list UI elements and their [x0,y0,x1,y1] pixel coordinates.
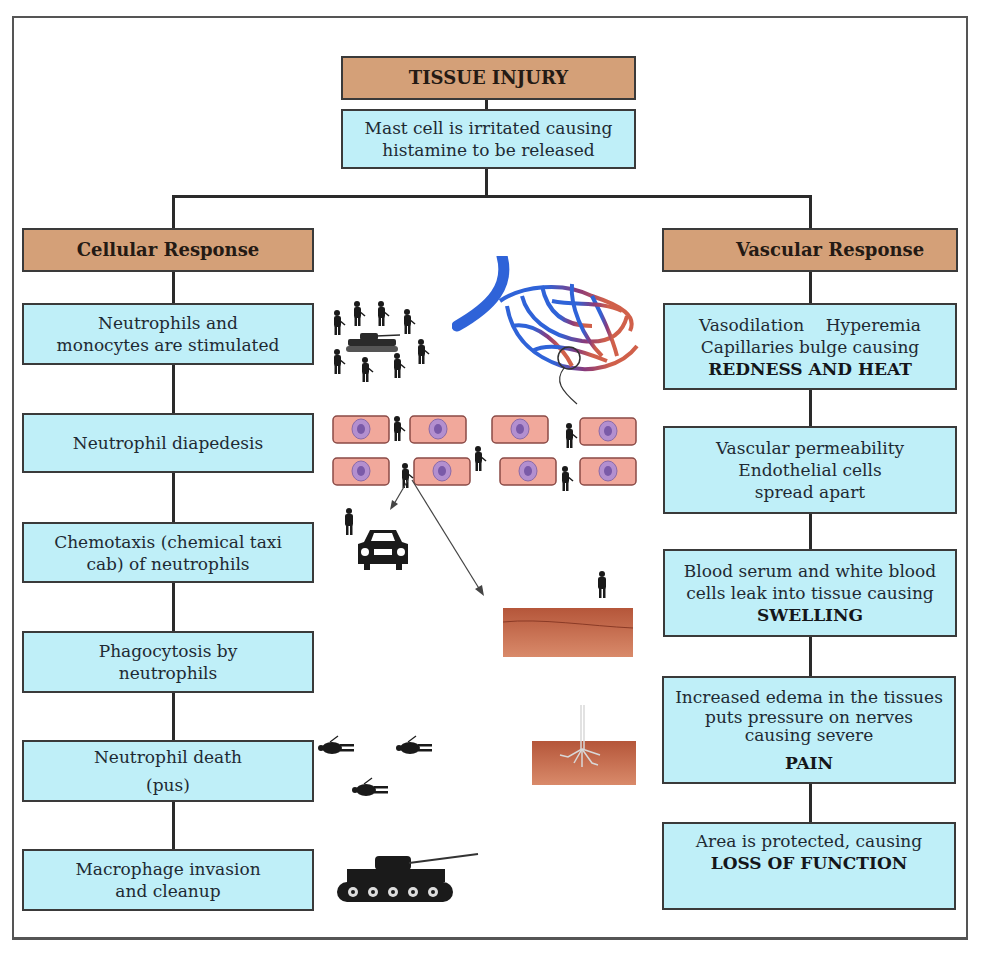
step-text: and cleanup [115,880,220,902]
connector [485,169,488,197]
tissue-injury-header: TISSUE INJURY [341,56,636,100]
fallen-soldiers-icon [314,730,454,810]
connector [172,272,175,304]
step-text: puts pressure on nerves [705,708,913,726]
step-text: cells leak into tissue causing [686,582,934,604]
step-text: Increased edema in the tissues [675,686,943,708]
vascular-step-4: Increased edema in the tissues puts pres… [662,676,956,784]
step-text: causing severe [745,726,874,744]
step-text: Endothelial cells [738,459,881,481]
connector [172,195,175,229]
step-text: Phagocytosis by [99,640,238,662]
step-text: monocytes are stimulated [57,334,280,356]
step-text: Neutrophil death [94,746,242,768]
step-text: neutrophils [119,662,218,684]
mast-cell-box: Mast cell is irritated causing histamine… [341,109,636,169]
connector [172,195,812,198]
connector [809,784,812,823]
vascular-step-3: Blood serum and white blood cells leak i… [663,549,957,637]
step-text: Neutrophil diapedesis [73,432,263,454]
vascular-step-1: Vasodilation Hyperemia Capillaries bulge… [663,303,957,390]
vascular-step-2: Vascular permeability Endothelial cells … [663,426,957,514]
vascular-step-5: Area is protected, causing LOSS OF FUNCT… [662,822,956,910]
vascular-response-label: Vascular Response [696,239,924,261]
cellular-step-1: Neutrophils and monocytes are stimulated [22,303,314,365]
connector [172,693,175,741]
symptom-loss-of-function: LOSS OF FUNCTION [711,852,908,874]
connector [172,802,175,850]
mast-cell-line2: histamine to be released [382,139,594,161]
step-text: cab) of neutrophils [86,553,249,575]
vascular-response-header: Vascular Response [662,228,958,272]
connector [172,365,175,414]
step-text: Macrophage invasion [75,858,260,880]
cellular-step-2: Neutrophil diapedesis [22,413,314,473]
taxi-car-icon [340,508,420,578]
step-text: Vascular permeability [716,437,904,459]
tank-icon [335,852,480,907]
symptom-pain: PAIN [785,752,833,774]
soldiers-and-tank-icon [328,295,438,395]
step-text: Vasodilation Hyperemia [699,314,921,336]
connector [809,390,812,427]
capillary-bed-icon [452,256,652,406]
symptom-redness-heat: REDNESS AND HEAT [708,358,912,380]
tissue-injury-label: TISSUE INJURY [409,67,568,89]
cellular-step-5: Neutrophil death (pus) [22,740,314,802]
cellular-step-3: Chemotaxis (chemical taxi cab) of neutro… [22,522,314,583]
step-text: (pus) [146,774,190,796]
connector [809,195,812,229]
step-text: spread apart [755,481,865,503]
step-text: Chemotaxis (chemical taxi [54,531,282,553]
step-text: Area is protected, causing [696,830,922,852]
cellular-step-6: Macrophage invasion and cleanup [22,849,314,911]
connector [172,473,175,523]
mast-cell-line1: Mast cell is irritated causing [365,117,613,139]
step-text: Capillaries bulge causing [701,336,919,358]
connector [809,514,812,550]
connector [809,637,812,677]
cellular-step-4: Phagocytosis by neutrophils [22,631,314,693]
step-text: Neutrophils and [98,312,238,334]
cellular-response-label: Cellular Response [77,239,260,261]
connector [809,272,812,304]
cellular-response-header: Cellular Response [22,228,314,272]
tissue-block-icon [500,570,635,660]
symptom-swelling: SWELLING [757,604,863,626]
step-text: Blood serum and white blood [684,560,936,582]
connector [172,583,175,632]
nerve-in-tissue-icon [530,705,640,790]
